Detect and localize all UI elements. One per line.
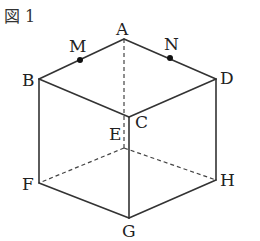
point-label-n: N [164,34,179,54]
edge-eh [124,148,216,180]
vertex-label-g: G [122,221,136,241]
visible-edges [39,39,216,218]
point-n-dot [167,55,173,61]
point-label-m: M [69,36,86,56]
vertex-label-b: B [22,70,35,90]
vertex-label-d: D [220,68,234,88]
point-m-dot [77,57,83,63]
edge-ef [39,148,124,183]
midpoints [77,55,173,63]
hidden-edges [39,39,216,183]
vertex-label-h: H [220,170,235,190]
edge-fg [39,183,129,218]
vertex-label-f: F [22,174,34,194]
edge-bc [39,79,129,117]
edge-gh [129,180,216,218]
vertex-label-e: E [109,124,121,144]
cube-svg: 図 1 A B C D E F G H M N [0,0,260,241]
vertex-label-a: A [115,19,129,39]
figure-title: 図 1 [4,7,35,26]
figure-1-cube-diagram: 図 1 A B C D E F G H M N [0,0,260,241]
vertex-label-c: C [135,112,148,132]
